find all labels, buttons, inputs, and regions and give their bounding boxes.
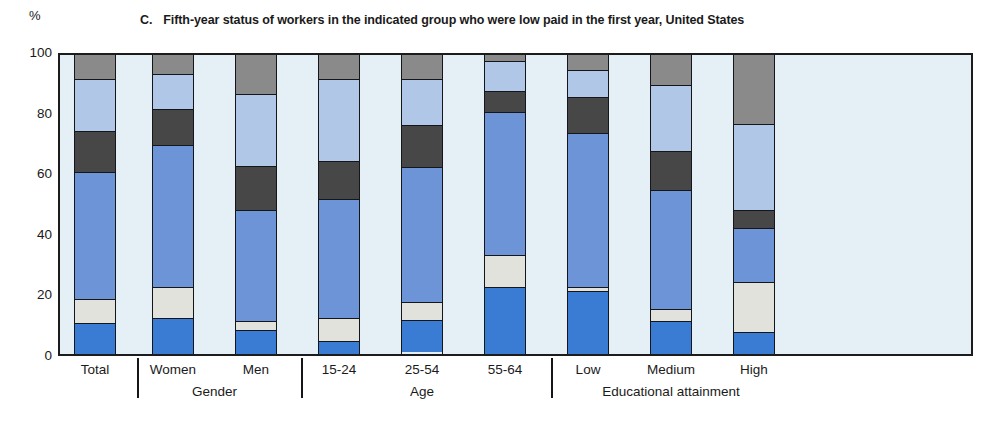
x-group-label-age: Age	[410, 384, 434, 399]
bar-low[interactable]	[567, 55, 609, 354]
bar-segment	[734, 124, 774, 211]
bar-segment	[236, 166, 276, 211]
bar-segment	[75, 299, 115, 323]
group-separator	[551, 358, 553, 398]
bar-total[interactable]	[74, 55, 116, 354]
bar-segment	[75, 131, 115, 171]
x-label-low: Low	[576, 362, 601, 377]
bar-segment	[402, 55, 442, 79]
bar-segment	[236, 321, 276, 330]
chart-title: C.Fifth-year status of workers in the in…	[140, 13, 744, 27]
bar-segment	[402, 167, 442, 302]
bar-segment	[651, 85, 691, 151]
x-label-women: Women	[150, 362, 196, 377]
bar-segment	[568, 133, 608, 287]
bar-segment	[651, 151, 691, 190]
bar-segment	[153, 318, 193, 354]
bar-segment	[75, 172, 115, 299]
bar-segment	[236, 210, 276, 321]
x-label-15-24: 15-24	[322, 362, 357, 377]
bar-segment	[153, 55, 193, 74]
x-label-medium: Medium	[647, 362, 695, 377]
x-label-total: Total	[81, 362, 110, 377]
bar-segment	[75, 55, 115, 79]
bar-segment	[651, 55, 691, 85]
x-label-25-54: 25-54	[405, 362, 440, 377]
y-axis-tick-80: 80	[0, 107, 52, 121]
bar-segment	[734, 228, 774, 282]
group-separator	[301, 358, 303, 398]
bar-segment	[319, 318, 359, 340]
y-axis-tick-100: 100	[0, 46, 52, 60]
bar-segment	[734, 282, 774, 331]
bar-segment	[485, 112, 525, 256]
bar-segment	[153, 145, 193, 287]
bar-medium[interactable]	[650, 55, 692, 354]
bar-segment	[319, 341, 359, 354]
bar-15-24[interactable]	[318, 55, 360, 354]
bar-segment	[402, 320, 442, 353]
x-group-label-educational-attainment: Educational attainment	[602, 384, 739, 399]
bar-segment	[485, 287, 525, 354]
y-axis: 020406080100	[0, 53, 52, 356]
bar-segment	[402, 79, 442, 125]
y-axis-tick-40: 40	[0, 228, 52, 242]
bar-segment	[568, 70, 608, 97]
x-label-high: High	[740, 362, 768, 377]
bar-25-54[interactable]	[401, 55, 443, 354]
x-group-label-gender: Gender	[192, 384, 237, 399]
bar-segment	[485, 255, 525, 286]
bars-layer	[60, 55, 971, 354]
bar-segment	[734, 55, 774, 124]
bar-segment	[734, 210, 774, 228]
bar-segment	[734, 332, 774, 354]
bar-segment	[153, 287, 193, 318]
bar-segment	[319, 161, 359, 198]
bar-segment	[568, 97, 608, 133]
bar-high[interactable]	[733, 55, 775, 354]
bar-segment	[485, 91, 525, 112]
bar-segment	[319, 199, 359, 319]
x-label-55-64: 55-64	[488, 362, 523, 377]
chart-title-text: Fifth-year status of workers in the indi…	[163, 13, 744, 27]
bar-segment	[402, 302, 442, 320]
bar-segment	[75, 79, 115, 131]
bar-segment	[236, 94, 276, 166]
bar-segment	[75, 323, 115, 354]
bar-segment	[651, 309, 691, 321]
y-axis-tick-60: 60	[0, 167, 52, 181]
bar-men[interactable]	[235, 55, 277, 354]
bar-segment	[651, 190, 691, 310]
bar-segment	[402, 125, 442, 167]
y-axis-unit-label: %	[29, 8, 41, 23]
bar-55-64[interactable]	[484, 55, 526, 354]
x-axis-category-labels: TotalWomenMen15-2425-5455-64LowMediumHig…	[0, 362, 987, 386]
bar-segment	[236, 330, 276, 354]
x-label-men: Men	[243, 362, 269, 377]
bar-segment	[153, 109, 193, 145]
bar-segment	[485, 61, 525, 91]
bar-segment	[568, 291, 608, 354]
x-axis-group-labels: GenderAgeEducational attainment	[0, 384, 987, 408]
bar-segment	[319, 55, 359, 79]
bar-segment	[236, 55, 276, 94]
bar-segment	[651, 321, 691, 354]
y-axis-tick-0: 0	[0, 349, 52, 363]
group-separator	[137, 358, 139, 398]
y-axis-tick-20: 20	[0, 289, 52, 303]
bar-women[interactable]	[152, 55, 194, 354]
bar-segment	[153, 74, 193, 108]
bar-segment	[319, 79, 359, 161]
bar-segment	[568, 55, 608, 70]
chart-title-letter: C.	[140, 13, 152, 27]
